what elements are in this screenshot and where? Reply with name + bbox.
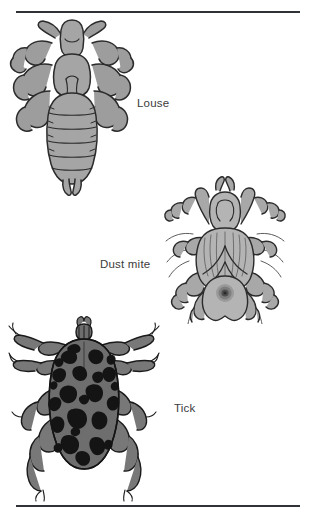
label-dust-mite: Dust mite xyxy=(100,259,150,271)
bottom-divider-rule xyxy=(16,505,300,507)
dust-mite-illustration xyxy=(163,176,287,324)
tick-illustration xyxy=(8,312,160,502)
top-divider-rule xyxy=(16,11,300,13)
figure-plate: Louse xyxy=(0,0,313,518)
label-louse: Louse xyxy=(137,98,169,110)
label-tick: Tick xyxy=(174,403,195,415)
louse-illustration xyxy=(8,17,136,199)
